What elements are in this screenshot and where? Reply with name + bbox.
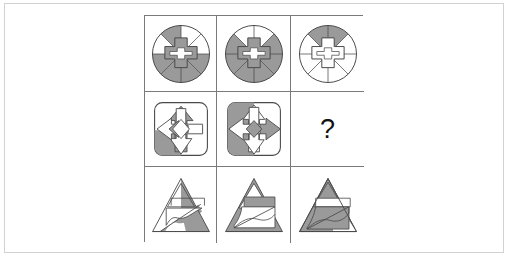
figure-triangle-r3c1	[150, 176, 212, 234]
figure-arrows-box-r2c2	[224, 99, 284, 159]
figure-circle-sectors-r1c3	[297, 23, 359, 85]
matrix-cell-row3-col3[interactable]	[291, 167, 364, 243]
matrix-cell-row2-col1[interactable]	[145, 92, 217, 167]
figure-arrows-box-r2c1	[151, 99, 211, 159]
missing-cell-question-mark: ?	[320, 116, 335, 143]
matrix-cell-row3-col2[interactable]	[217, 167, 291, 243]
matrix-cell-row3-col1[interactable]	[145, 167, 217, 243]
matrix-cell-row1-col1[interactable]	[145, 16, 217, 92]
figure-circle-sectors-r1c1	[150, 23, 212, 85]
figure-triangle-r3c3	[297, 176, 359, 234]
matrix-cell-row1-col3[interactable]	[291, 16, 364, 92]
figure-triangle-r3c2	[223, 176, 285, 234]
page-canvas: ?	[0, 0, 511, 261]
matrix-cell-row1-col2[interactable]	[217, 16, 291, 92]
figure-circle-sectors-r1c2	[223, 23, 285, 85]
matrix-grid: ?	[144, 15, 363, 242]
matrix-cell-row2-col3[interactable]: ?	[291, 92, 364, 167]
matrix-cell-row2-col2[interactable]	[217, 92, 291, 167]
